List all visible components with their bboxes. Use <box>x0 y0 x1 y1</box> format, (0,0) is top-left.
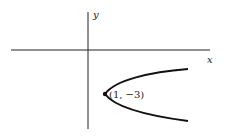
parabola-figure: x y (1, −3) <box>0 0 225 139</box>
vertex-label: (1, −3) <box>109 89 144 100</box>
vertex-point <box>103 92 107 96</box>
y-axis-label: y <box>92 9 99 20</box>
plot-canvas: x y (1, −3) <box>0 0 225 139</box>
x-axis-label: x <box>207 54 213 65</box>
